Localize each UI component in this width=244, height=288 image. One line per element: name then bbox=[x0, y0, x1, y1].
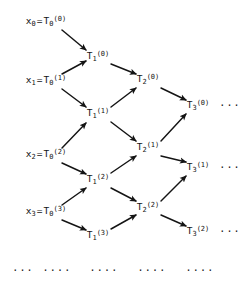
arrow-T2_1-to-T3_0 bbox=[161, 114, 186, 141]
ellipsis-e-row2: ··· bbox=[219, 227, 241, 237]
arrow-T1_2-to-T2_1 bbox=[111, 156, 136, 173]
arrow-x3-to-T1_2 bbox=[62, 188, 86, 205]
arrow-T1_3-to-T2_2 bbox=[111, 215, 136, 229]
arrow-T2_2-to-T3_2 bbox=[161, 215, 186, 226]
node-T1_3-sup: (3) bbox=[97, 229, 110, 237]
arrow-T1_1-to-T2_0 bbox=[111, 88, 136, 107]
node-x1: x1=T0(1) bbox=[26, 75, 66, 88]
node-T1_3: T1(3) bbox=[87, 230, 110, 243]
arrow-T2_0-to-T3_0 bbox=[161, 88, 186, 100]
node-T1_2: T1(2) bbox=[87, 174, 110, 187]
node-T3_0-sup: (0) bbox=[197, 99, 210, 107]
node-T3_1: T3(1) bbox=[187, 162, 210, 175]
node-x0: x0=T0(0) bbox=[26, 16, 66, 29]
node-x2: x2=T0(2) bbox=[26, 149, 66, 162]
node-T1_0-sup: (0) bbox=[97, 50, 110, 58]
ellipsis-e-bot1: ···· bbox=[43, 266, 72, 276]
node-T1_1: T1(1) bbox=[87, 108, 110, 121]
arrow-x2-to-T1_1 bbox=[62, 123, 86, 148]
node-T1_0: T1(0) bbox=[87, 51, 110, 64]
node-x3: x3=T0(3) bbox=[26, 206, 66, 219]
arrow-x1-to-T1_1 bbox=[62, 89, 86, 107]
node-T1_2-sup: (2) bbox=[97, 173, 110, 181]
node-x0-eq: = bbox=[36, 15, 44, 26]
node-x3-eq: = bbox=[36, 205, 44, 216]
node-T2_0-sup: (0) bbox=[147, 73, 160, 81]
arrow-T2_2-to-T3_1 bbox=[161, 176, 186, 201]
arrow-T1_1-to-T2_1 bbox=[111, 122, 136, 141]
node-T1_1-sup: (1) bbox=[97, 107, 110, 115]
arrow-x0-to-T1_0 bbox=[62, 30, 86, 50]
ellipsis-e-row1: ··· bbox=[219, 163, 241, 173]
node-T2_0: T2(0) bbox=[137, 74, 160, 87]
node-T2_1: T2(1) bbox=[137, 142, 160, 155]
arrow-group bbox=[62, 30, 186, 230]
arrow-layer bbox=[0, 0, 244, 288]
node-x0-tsup: (0) bbox=[53, 15, 66, 23]
ellipsis-e-bot4: ···· bbox=[186, 266, 215, 276]
node-T2_2-sup: (2) bbox=[147, 201, 160, 209]
ellipsis-e-row0: ··· bbox=[219, 101, 241, 111]
node-T3_2: T3(2) bbox=[187, 226, 210, 239]
arrow-T1_0-to-T2_0 bbox=[111, 64, 136, 74]
ellipsis-e-bot0: ··· bbox=[12, 266, 34, 276]
ellipsis-e-bot3: ···· bbox=[138, 266, 167, 276]
arrow-x1-to-T1_0 bbox=[62, 61, 86, 74]
extrapolation-tableau-figure: x0=T0(0)x1=T0(1)x2=T0(2)x3=T0(3)T1(0)T1(… bbox=[0, 0, 244, 288]
node-T3_1-sup: (1) bbox=[197, 161, 210, 169]
arrow-T1_2-to-T2_2 bbox=[111, 188, 136, 201]
node-x1-tsup: (1) bbox=[53, 74, 66, 82]
node-T3_0: T3(0) bbox=[187, 100, 210, 113]
node-x2-tsup: (2) bbox=[53, 148, 66, 156]
node-T2_2: T2(2) bbox=[137, 202, 160, 215]
arrow-T2_1-to-T3_1 bbox=[161, 156, 186, 162]
node-x2-eq: = bbox=[36, 148, 44, 159]
node-T2_1-sup: (1) bbox=[147, 141, 160, 149]
ellipsis-e-bot2: ···· bbox=[90, 266, 119, 276]
node-x1-eq: = bbox=[36, 74, 44, 85]
arrow-x3-to-T1_3 bbox=[62, 220, 86, 230]
node-x3-tsup: (3) bbox=[53, 205, 66, 213]
node-T3_2-sup: (2) bbox=[197, 225, 210, 233]
arrow-x2-to-T1_2 bbox=[62, 163, 86, 174]
